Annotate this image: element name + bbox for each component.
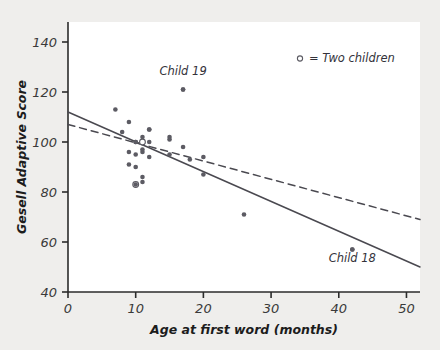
data-point bbox=[127, 120, 132, 125]
scatter-plot-figure: 40608010012014001020304050 Child 19Child… bbox=[0, 0, 440, 350]
data-point bbox=[140, 135, 145, 140]
data-point bbox=[133, 165, 138, 170]
annotation-child-18: Child 18 bbox=[329, 251, 376, 265]
data-point bbox=[120, 130, 125, 135]
data-point bbox=[147, 127, 152, 132]
gesell-score-scatter-chart: 40608010012014001020304050 Child 19Child… bbox=[0, 0, 440, 350]
y-axis-tick-label: 80 bbox=[40, 185, 57, 200]
x-axis-title: Age at first word (months) bbox=[149, 322, 338, 337]
data-point bbox=[133, 182, 138, 187]
y-axis-tick-label: 60 bbox=[40, 235, 57, 250]
data-point bbox=[181, 87, 186, 92]
y-axis-tick-label: 40 bbox=[40, 285, 57, 300]
data-point bbox=[242, 212, 247, 217]
data-point bbox=[140, 180, 145, 185]
x-axis-tick-label: 10 bbox=[127, 301, 144, 316]
legend-label: = Two children bbox=[309, 51, 395, 65]
data-point bbox=[127, 150, 132, 155]
data-point bbox=[201, 172, 206, 177]
legend-open-circle-icon bbox=[297, 56, 302, 61]
data-point bbox=[133, 152, 138, 157]
x-axis-tick-label: 40 bbox=[330, 301, 347, 316]
x-axis-tick-label: 50 bbox=[398, 301, 415, 316]
data-point bbox=[113, 107, 118, 112]
data-point bbox=[140, 147, 145, 152]
data-point bbox=[188, 157, 193, 162]
data-point bbox=[167, 137, 172, 142]
data-point bbox=[133, 140, 138, 145]
y-axis-tick-label: 140 bbox=[32, 35, 57, 50]
data-point bbox=[181, 145, 186, 150]
y-axis-title: Gesell Adaptive Score bbox=[14, 80, 29, 234]
data-point bbox=[127, 162, 132, 167]
x-axis-tick-label: 0 bbox=[64, 301, 72, 316]
legend-layer: = Two children bbox=[297, 51, 394, 65]
data-point bbox=[147, 155, 152, 160]
data-point bbox=[140, 175, 145, 180]
y-axis-tick-label: 120 bbox=[32, 85, 57, 100]
data-point-open bbox=[140, 139, 146, 145]
data-point bbox=[147, 140, 152, 145]
x-axis-tick-label: 20 bbox=[195, 301, 212, 316]
data-point bbox=[201, 155, 206, 160]
y-axis-tick-label: 100 bbox=[32, 135, 57, 150]
data-point bbox=[167, 152, 172, 157]
x-axis-tick-label: 30 bbox=[263, 301, 280, 316]
annotation-child-19: Child 19 bbox=[159, 64, 206, 78]
